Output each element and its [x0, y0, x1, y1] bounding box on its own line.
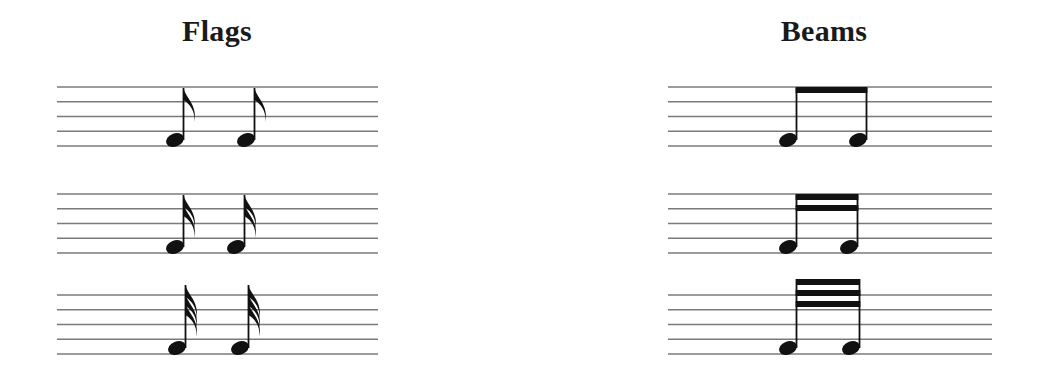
- note-beam: [796, 279, 861, 285]
- notes: [164, 87, 869, 358]
- note-beam: [796, 301, 861, 307]
- note-beam: [796, 290, 861, 296]
- note-beam: [796, 194, 859, 200]
- note-beam: [796, 87, 868, 93]
- note-beam: [796, 205, 859, 211]
- staves: [57, 87, 992, 354]
- notation-diagram: [0, 0, 1038, 387]
